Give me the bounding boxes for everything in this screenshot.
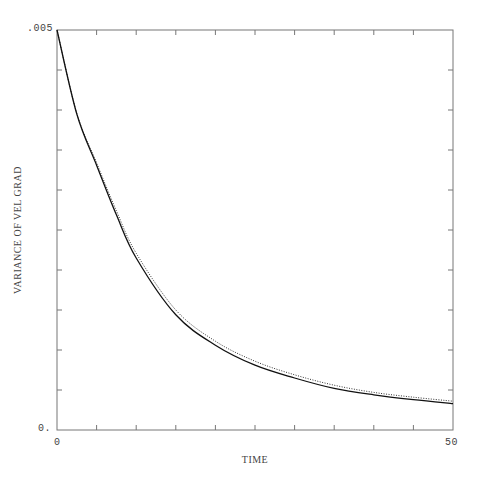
y-tick-label-bottom: 0. [38,423,51,434]
y-axis-label: VARIANCE OF VEL GRAD [12,166,23,294]
series-solid-line [57,30,453,404]
line-chart [0,0,480,483]
x-tick-label-right: 50 [445,437,458,448]
plot-frame [57,30,453,430]
axis-ticks [57,30,453,430]
x-tick-label-left: 0 [54,437,61,448]
x-axis-label: TIME [242,454,268,465]
y-tick-label-top: .005 [27,23,53,34]
